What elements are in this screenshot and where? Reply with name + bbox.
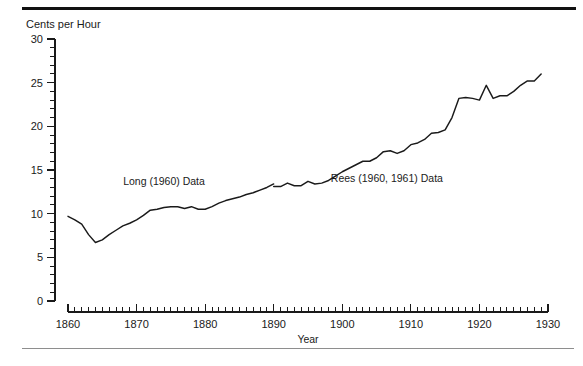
y-tick-label: 15 <box>31 164 43 176</box>
x-tick-label: 1900 <box>330 318 354 330</box>
line-chart: Cents per Hour 051015202530 186018701880… <box>0 0 583 366</box>
x-tick-label: 1920 <box>467 318 491 330</box>
y-tick-label: 5 <box>37 251 43 263</box>
figure-container: Cents per Hour 051015202530 186018701880… <box>0 0 583 366</box>
x-tick-label: 1870 <box>124 318 148 330</box>
x-tick-label: 1860 <box>56 318 80 330</box>
data-series-group <box>68 74 541 243</box>
y-tick-label: 0 <box>37 295 43 307</box>
data-series-line <box>274 74 541 187</box>
chart-x-axis-title-group: Year <box>297 333 319 345</box>
y-axis: 051015202530 <box>31 33 55 307</box>
y-tick-label: 25 <box>31 77 43 89</box>
y-tick-label: 10 <box>31 208 43 220</box>
y-axis-title: Cents per Hour <box>26 18 101 30</box>
series-annotation-label: Long (1960) Data <box>123 175 205 187</box>
x-tick-label: 1910 <box>399 318 423 330</box>
x-axis: 18601870188018901900191019201930 <box>56 304 560 330</box>
y-tick-label: 20 <box>31 120 43 132</box>
x-axis-title: Year <box>297 333 319 345</box>
chart-y-axis-title-group: Cents per Hour <box>26 18 101 30</box>
data-series-line <box>68 184 274 243</box>
x-tick-label: 1890 <box>261 318 285 330</box>
x-tick-label: 1880 <box>193 318 217 330</box>
x-tick-label: 1930 <box>536 318 560 330</box>
top-divider-rule <box>22 7 576 10</box>
y-tick-label: 30 <box>31 33 43 45</box>
bottom-divider-rule <box>22 348 574 349</box>
series-annotation-label: Rees (1960, 1961) Data <box>331 172 443 184</box>
